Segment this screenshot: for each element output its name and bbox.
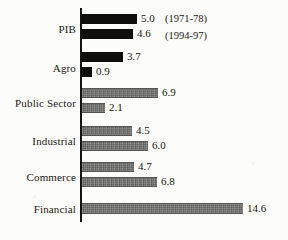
bar-fill — [82, 141, 148, 151]
bar-industrial-1971-78: 4.5 — [82, 126, 132, 136]
bar-value-label: 14.6 — [247, 203, 266, 214]
legend-entry-1994-97: (1994-97) — [165, 30, 207, 41]
bar-fill — [82, 67, 92, 77]
category-label-commerce: Commerce — [0, 172, 76, 183]
category-label-pib: PIB — [0, 24, 76, 35]
bar-value-label: 2.1 — [109, 102, 123, 113]
bar-value-label: 4.5 — [136, 125, 150, 136]
bar-value-label: 5.0 — [141, 13, 155, 24]
bar-value-label: 6.0 — [152, 140, 166, 151]
bar-agro-1994-97: 0.9 — [82, 67, 92, 77]
bar-commerce-1994-97: 6.8 — [82, 177, 157, 187]
bar-agro-1971-78: 3.7 — [82, 52, 123, 62]
bar-fill — [82, 177, 157, 187]
bar-pib-1971-78: 5.0 — [82, 14, 137, 24]
bar-public-sector-1994-97: 2.1 — [82, 103, 105, 113]
legend-entry-1971-78: (1971-78) — [165, 13, 207, 24]
bar-value-label: 3.7 — [127, 51, 141, 62]
bar-financial-1994-97: 14.6 — [82, 203, 243, 214]
bar-industrial-1994-97: 6.0 — [82, 141, 148, 151]
bar-fill — [82, 162, 134, 172]
category-label-industrial: Industrial — [0, 136, 76, 147]
bar-fill — [82, 52, 123, 62]
bar-value-label: 0.9 — [96, 66, 110, 77]
bar-fill — [82, 88, 158, 98]
category-label-agro: Agro — [0, 63, 76, 74]
bar-fill — [82, 103, 105, 113]
category-axis-line — [80, 8, 82, 222]
category-label-public-sector: Public Sector — [0, 98, 76, 109]
bar-fill — [82, 203, 243, 214]
category-label-financial: Financial — [0, 204, 76, 215]
bar-chart: PIB Agro Public Sector Industrial Commer… — [0, 0, 288, 240]
bar-value-label: 6.9 — [162, 87, 176, 98]
bar-fill — [82, 14, 137, 24]
bar-public-sector-1971-78: 6.9 — [82, 88, 158, 98]
bar-fill — [82, 126, 132, 136]
bar-commerce-1971-78: 4.7 — [82, 162, 134, 172]
bar-value-label: 4.7 — [138, 161, 152, 172]
bar-pib-1994-97: 4.6 — [82, 29, 133, 39]
bar-value-label: 4.6 — [137, 28, 151, 39]
bar-fill — [82, 29, 133, 39]
bar-value-label: 6.8 — [161, 176, 175, 187]
